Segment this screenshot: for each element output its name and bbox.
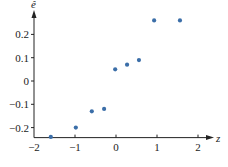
y-tick-label: −0.1: [9, 98, 29, 110]
y-tick-label: 0.1: [15, 52, 29, 64]
data-point: [125, 63, 129, 67]
x-tick-label: −2: [28, 141, 40, 153]
x-axis-arrow-icon: [206, 135, 214, 140]
data-point: [113, 67, 117, 71]
x-tick-label: 1: [154, 141, 160, 153]
y-axis-label: ê: [31, 0, 36, 10]
x-tick-label: 2: [195, 141, 201, 153]
x-axis-label: z: [215, 132, 221, 144]
data-point: [152, 18, 156, 22]
axes: zê−2−1012−0.2−0.100.10.2: [9, 0, 221, 153]
y-tick-label: 0: [24, 75, 30, 87]
x-tick-label: 0: [113, 141, 119, 153]
y-axis-arrow-icon: [32, 10, 37, 18]
data-point: [137, 58, 141, 62]
data-point: [90, 109, 94, 113]
data-point: [178, 18, 182, 22]
data-point: [74, 126, 78, 130]
y-tick-label: 0.2: [15, 28, 29, 40]
scatter-chart: zê−2−1012−0.2−0.100.10.2: [0, 0, 228, 167]
y-tick-label: −0.2: [9, 122, 29, 134]
data-point: [102, 107, 106, 111]
data-point: [49, 135, 53, 139]
data-points: [49, 18, 182, 139]
x-tick-label: −1: [69, 141, 81, 153]
